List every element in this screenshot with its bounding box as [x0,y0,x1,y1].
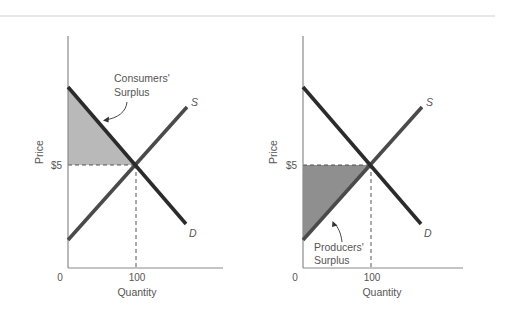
quantity-tick-label: 100 [129,272,146,283]
origin-label: 0 [57,272,63,283]
panel-consumers-surplus: S D Consumers' Surplus $5 0 100 Quantity… [33,36,223,298]
y-axis-title: Price [33,140,45,164]
arrowhead-icon [103,117,109,123]
price-tick-label: $5 [51,160,63,171]
annotation-line-1: Producers' [314,241,364,253]
demand-label: D [189,227,197,239]
annotation-line-1: Consumers' [114,72,170,84]
demand-label: D [424,227,432,239]
quantity-tick-label: 100 [364,272,381,283]
price-tick-label: $5 [286,160,298,171]
annotation-line-2: Surplus [314,254,350,266]
y-axis-title: Price [267,140,279,164]
panel-producers-surplus: S D Producers' Surplus $5 0 100 Quantity… [267,36,463,298]
supply-label: S [191,96,198,108]
annotation-line-2: Surplus [114,86,150,98]
x-axis-title: Quantity [117,286,157,298]
surplus-figure: S D Consumers' Surplus $5 0 100 Quantity… [0,0,505,324]
figure-canvas: S D Consumers' Surplus $5 0 100 Quantity… [0,0,505,324]
supply-label: S [426,96,433,108]
origin-label: 0 [292,272,298,283]
x-axis-title: Quantity [362,286,402,298]
